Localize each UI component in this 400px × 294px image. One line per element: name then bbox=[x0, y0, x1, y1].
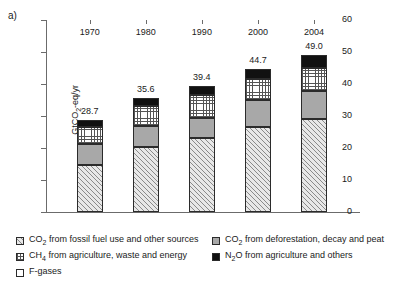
bar-segment bbox=[77, 165, 103, 212]
legend-swatch-co2-fossil-icon bbox=[16, 237, 24, 245]
plot-area: GtCO2-eq/yr 0102030405060 19701980199020… bbox=[46, 20, 360, 212]
bar-segment bbox=[133, 98, 159, 106]
bar-1980[interactable]: 35.6 bbox=[133, 20, 159, 212]
legend-label-co2-fossil: CO2 from fossil fuel use and other sourc… bbox=[29, 234, 198, 248]
bar-segment bbox=[189, 95, 215, 118]
y-tick bbox=[41, 180, 46, 181]
bar-2000[interactable]: 44.7 bbox=[245, 20, 271, 212]
legend-row: F-gases bbox=[16, 266, 392, 279]
y-tick bbox=[41, 20, 46, 21]
legend-label-n2o-agriculture: N2O from agriculture and others bbox=[225, 250, 352, 264]
y-axis-line bbox=[46, 20, 47, 212]
legend-item-co2-deforestation[interactable]: CO2 from deforestation, decay and peat bbox=[212, 234, 392, 248]
chart-legend: CO2 from fossil fuel use and other sourc… bbox=[16, 234, 392, 282]
y-tick bbox=[41, 84, 46, 85]
bar-segment bbox=[301, 55, 327, 67]
bar-segment bbox=[245, 100, 271, 127]
bar-segment bbox=[133, 126, 159, 147]
bar-segment bbox=[189, 118, 215, 139]
bar-segment bbox=[301, 68, 327, 91]
legend-label-f-gases: F-gases bbox=[29, 266, 62, 280]
bar-segment bbox=[77, 120, 103, 127]
legend-label-co2-deforestation: CO2 from deforestation, decay and peat bbox=[225, 234, 384, 248]
bar-1970[interactable]: 28.7 bbox=[77, 20, 103, 212]
bar-total-label: 39.4 bbox=[172, 72, 232, 82]
bar-total-label: 28.7 bbox=[60, 106, 120, 116]
legend-item-n2o-agriculture[interactable]: N2O from agriculture and others bbox=[212, 250, 392, 264]
legend-item-ch4-agriculture[interactable]: CH4 from agriculture, waste and energy bbox=[16, 250, 212, 264]
legend-item-co2-fossil[interactable]: CO2 from fossil fuel use and other sourc… bbox=[16, 234, 212, 248]
bar-segment bbox=[189, 138, 215, 212]
y-tick bbox=[41, 52, 46, 53]
bar-segment bbox=[301, 119, 327, 212]
y-tick bbox=[41, 116, 46, 117]
bar-segment bbox=[245, 69, 271, 79]
bar-segment bbox=[77, 127, 103, 145]
legend-swatch-ch4-agriculture-icon bbox=[16, 253, 24, 261]
legend-label-ch4-agriculture: CH4 from agriculture, waste and energy bbox=[29, 250, 187, 264]
bar-segment bbox=[133, 147, 159, 212]
bar-segment bbox=[245, 79, 271, 100]
panel-label: a) bbox=[8, 10, 17, 21]
bar-segment bbox=[245, 127, 271, 212]
bar-2004[interactable]: 49.0 bbox=[301, 20, 327, 212]
bar-total-label: 35.6 bbox=[116, 84, 176, 94]
legend-row: CH4 from agriculture, waste and energy N… bbox=[16, 250, 392, 263]
x-axis-line bbox=[46, 212, 360, 213]
legend-swatch-co2-deforestation-icon bbox=[212, 237, 220, 245]
bar-segment bbox=[301, 91, 327, 119]
bar-segment bbox=[77, 144, 103, 164]
bar-segment bbox=[189, 86, 215, 95]
bar-segment bbox=[133, 106, 159, 126]
y-tick bbox=[41, 148, 46, 149]
bar-total-label: 44.7 bbox=[228, 55, 288, 65]
legend-swatch-f-gases-icon bbox=[16, 269, 24, 277]
legend-row: CO2 from fossil fuel use and other sourc… bbox=[16, 234, 392, 247]
bar-1990[interactable]: 39.4 bbox=[189, 20, 215, 212]
y-tick bbox=[41, 212, 46, 213]
bar-total-label: 49.0 bbox=[284, 41, 344, 51]
figure-panel-a: a) GtCO2-eq/yr 0102030405060 19701980199… bbox=[0, 0, 400, 294]
legend-item-f-gases[interactable]: F-gases bbox=[16, 266, 212, 280]
legend-swatch-n2o-agriculture-icon bbox=[212, 253, 220, 261]
